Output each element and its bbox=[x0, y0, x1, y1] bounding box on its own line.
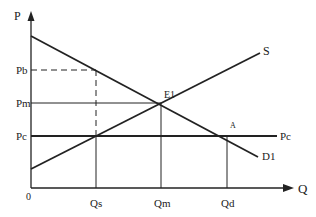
supply-demand-diagram: P Q 0 Pb Pm Pc Pc Qs Qm Qd S D1 E1 A bbox=[0, 0, 316, 217]
pb-label: Pb bbox=[16, 64, 28, 76]
pc-right-label: Pc bbox=[280, 130, 291, 142]
x-axis-label: Q bbox=[298, 181, 308, 196]
y-axis-label: P bbox=[14, 9, 21, 23]
point-a-label: A bbox=[230, 121, 236, 130]
demand-curve bbox=[31, 36, 258, 157]
x-axis-arrow-icon bbox=[283, 184, 294, 192]
pm-label: Pm bbox=[16, 97, 31, 109]
qd-label: Qd bbox=[221, 197, 235, 209]
pc-label: Pc bbox=[16, 130, 27, 142]
y-axis-arrow-icon bbox=[28, 11, 35, 21]
demand-label: D1 bbox=[262, 150, 275, 162]
equilibrium-label: E1 bbox=[164, 89, 175, 100]
supply-label: S bbox=[263, 44, 270, 58]
qs-label: Qs bbox=[90, 197, 102, 209]
qm-label: Qm bbox=[154, 197, 171, 209]
origin-label: 0 bbox=[26, 191, 31, 202]
